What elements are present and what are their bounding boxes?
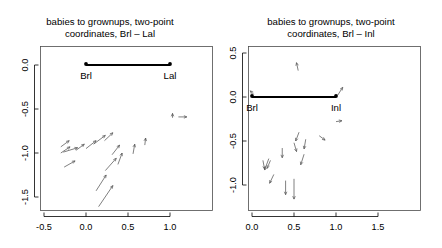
panel-left-xtick-2: 0.5 [122, 222, 135, 232]
panel-right-title-line1: babies to grownups, two-point [267, 16, 395, 27]
panel-left-svg: babies to grownups, two-point coordinate… [0, 0, 221, 248]
panel-right-baseline-label-1: Inl [331, 102, 341, 113]
displacement-vector [96, 175, 106, 191]
panel-right-ytick-1: 0.0 [228, 91, 238, 104]
panel-right-xtick-3: 1.5 [372, 222, 385, 232]
displacement-vector [76, 144, 84, 150]
displacement-vector [112, 145, 120, 155]
panel-right-xtick-1: 0.5 [288, 222, 301, 232]
panel-right-vectors [250, 63, 342, 199]
panel-left-ytick-0: 0.0 [20, 59, 30, 72]
panel-right-x-axis: 0.0 0.5 1.0 1.5 [246, 213, 385, 233]
panel-left-xtick-0: -0.5 [36, 222, 52, 232]
displacement-vector [61, 147, 70, 153]
panel-left-ytick-3: -1.5 [20, 189, 30, 205]
panel-left-x-axis: -0.5 0.0 0.5 1.0 [36, 213, 176, 233]
panel-right: babies to grownups, two-point coordinate… [221, 0, 442, 248]
displacement-vector [64, 161, 75, 167]
panel-left-y-axis: 0.0 -0.5 -1.0 -1.5 [20, 59, 39, 205]
panel-left-title-line1: babies to grownups, two-point [46, 16, 174, 27]
panel-left-baseline-label-1: Lal [164, 70, 177, 81]
displacement-vector [105, 158, 116, 170]
panel-right-plot-frame [249, 47, 421, 211]
displacement-vector [86, 141, 96, 149]
panel-left-plot-frame [41, 47, 213, 211]
panel-left-xtick-3: 1.0 [164, 222, 177, 232]
panel-right-ytick-3: -1.0 [228, 177, 238, 193]
displacement-vector [270, 174, 274, 183]
displacement-vector [61, 141, 69, 147]
two-panel-figure: babies to grownups, two-point coordinate… [0, 0, 442, 248]
panel-left-baseline-label-0: Brl [80, 70, 92, 81]
panel-left-xtick-1: 0.0 [80, 222, 93, 232]
panel-right-title-line2: coordinates, Brl – Inl [287, 28, 374, 39]
displacement-vector [104, 133, 112, 141]
panel-left-title-line2: coordinates, Brl – Lal [65, 28, 155, 39]
panel-right-baseline: Brl Inl [246, 94, 341, 113]
panel-left: babies to grownups, two-point coordinate… [0, 0, 221, 248]
displacement-vector [338, 87, 343, 95]
panel-right-xtick-2: 1.0 [330, 222, 343, 232]
displacement-vector [99, 186, 113, 207]
panel-right-xtick-0: 0.0 [246, 222, 259, 232]
panel-left-baseline: Brl Lal [80, 62, 176, 81]
panel-right-ytick-2: -0.5 [228, 133, 238, 149]
panel-right-ytick-0: 0.5 [228, 47, 238, 60]
displacement-vector [94, 135, 106, 144]
panel-left-vectors [61, 113, 187, 206]
panel-right-y-axis: 0.5 0.0 -0.5 -1.0 [228, 47, 247, 193]
panel-right-baseline-label-0: Brl [246, 102, 258, 113]
panel-right-svg: babies to grownups, two-point coordinate… [221, 0, 442, 248]
panel-left-ytick-1: -0.5 [20, 101, 30, 117]
panel-left-ytick-2: -1.0 [20, 145, 30, 161]
